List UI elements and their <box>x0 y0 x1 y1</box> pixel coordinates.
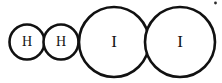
hydrogen-atom-2-label: H <box>56 34 66 49</box>
molecule-canvas: H H I I <box>0 0 222 83</box>
hydrogen-atom-1-label: H <box>22 34 32 49</box>
molecule-diagram: H H I I <box>0 0 222 83</box>
scan-speck-artifact <box>214 2 217 5</box>
iodine-atom-2-label: I <box>177 32 183 51</box>
iodine-atom-1-label: I <box>111 32 117 51</box>
